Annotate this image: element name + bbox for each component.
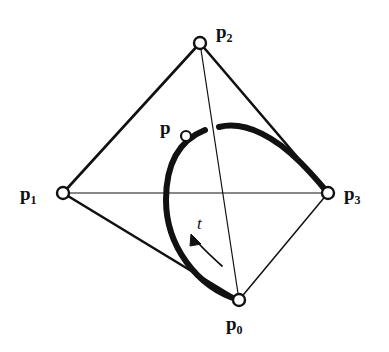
label-p0-subscript: 0 <box>237 323 243 337</box>
label-p-base: p <box>160 117 171 138</box>
edge-p1-p2 <box>63 43 200 193</box>
marker-p <box>181 131 191 141</box>
label-p0: p0 <box>226 314 243 336</box>
label-p1-subscript: 1 <box>31 193 37 207</box>
label-parameter-t: t <box>197 215 202 232</box>
label-p: p <box>160 118 171 137</box>
marker-p2 <box>194 37 206 49</box>
label-p0-base: p <box>226 313 237 334</box>
marker-p0 <box>233 294 245 306</box>
curve-segment-left <box>166 130 239 300</box>
diagram-canvas <box>0 0 389 352</box>
curve-segment-right <box>219 126 328 193</box>
bezier-curve-diagram: p0 p1 p2 p3 p t <box>0 0 389 352</box>
label-p2: p2 <box>216 22 233 44</box>
label-p3-base: p <box>344 183 355 204</box>
label-p2-subscript: 2 <box>227 31 233 45</box>
marker-p1 <box>57 187 69 199</box>
label-p1: p1 <box>20 184 37 206</box>
label-p3-subscript: 3 <box>355 193 361 207</box>
point-markers <box>57 37 334 306</box>
label-p1-base: p <box>20 183 31 204</box>
edge-p0-p3 <box>239 193 328 300</box>
edge-p1-p0 <box>63 193 239 300</box>
arrow-head-icon <box>190 234 201 246</box>
marker-p3 <box>322 187 334 199</box>
parameter-direction-arrow <box>190 234 222 266</box>
control-polygon <box>63 43 328 300</box>
label-p2-base: p <box>216 21 227 42</box>
bezier-curve <box>166 126 328 300</box>
label-p3: p3 <box>344 184 361 206</box>
